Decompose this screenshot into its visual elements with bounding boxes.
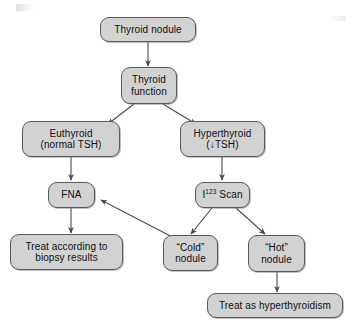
node-treat-biopsy-text: Treat according to biopsy results xyxy=(25,241,107,263)
node-cold-nodule[interactable]: “Cold” nodule xyxy=(163,235,218,271)
node-cold-nodule-label-line1: “Cold” xyxy=(175,242,206,253)
node-cold-nodule-text: “Cold” nodule xyxy=(175,242,206,264)
edge-scan-to-cold xyxy=(191,208,212,234)
node-euthyroid-label-line1: Euthyroid xyxy=(40,128,101,139)
node-euthyroid-text: Euthyroid (normal TSH) xyxy=(40,128,101,150)
node-thyroid-nodule[interactable]: Thyroid nodule xyxy=(100,17,196,42)
node-treat-according-to-biopsy-results[interactable]: Treat according to biopsy results xyxy=(10,234,123,270)
node-hot-nodule-label-line1: “Hot” xyxy=(261,242,292,253)
node-hyperthyroid-text: Hyperthyroid (↓TSH) xyxy=(194,128,252,150)
node-thyroid-function-label-line2: function xyxy=(131,86,167,97)
node-hot-nodule-label-line2: nodule xyxy=(261,254,292,265)
node-i123-scan-label-suffix: Scan xyxy=(216,189,242,200)
node-euthyroid-label-line2: (normal TSH) xyxy=(40,139,101,150)
node-treat-as-hyperthyroidism-label: Treat as hyperthyroidism xyxy=(219,300,331,311)
node-thyroid-function-label-line1: Thyroid xyxy=(131,74,167,85)
node-fna-label: FNA xyxy=(61,189,81,200)
node-hot-nodule[interactable]: “Hot” nodule xyxy=(248,235,305,272)
node-i123-scan[interactable]: I123 Scan xyxy=(195,182,250,208)
node-treat-biopsy-label-line1: Treat according to xyxy=(25,241,107,252)
node-hyperthyroid-label-line1: Hyperthyroid xyxy=(194,128,252,139)
node-hyperthyroid[interactable]: Hyperthyroid (↓TSH) xyxy=(180,121,265,157)
node-euthyroid[interactable]: Euthyroid (normal TSH) xyxy=(22,121,120,157)
flowchart-canvas: Thyroid nodule Thyroid function Euthyroi… xyxy=(0,0,353,326)
node-hyperthyroid-label-line2: (↓TSH) xyxy=(194,139,252,150)
node-treat-biopsy-label-line2: biopsy results xyxy=(25,252,107,263)
node-thyroid-function[interactable]: Thyroid function xyxy=(121,67,177,104)
connector-layer xyxy=(0,0,353,326)
node-treat-as-hyperthyroidism[interactable]: Treat as hyperthyroidism xyxy=(207,293,343,318)
node-thyroid-nodule-label: Thyroid nodule xyxy=(114,24,182,35)
node-hot-nodule-text: “Hot” nodule xyxy=(261,242,292,264)
edge-scan-to-hot xyxy=(236,208,265,234)
node-fna[interactable]: FNA xyxy=(48,182,95,208)
node-cold-nodule-label-line2: nodule xyxy=(175,253,206,264)
node-thyroid-function-text: Thyroid function xyxy=(131,74,167,96)
node-i123-scan-text: I123 Scan xyxy=(202,189,242,200)
node-i123-scan-label-isotope: 123 xyxy=(205,188,216,195)
